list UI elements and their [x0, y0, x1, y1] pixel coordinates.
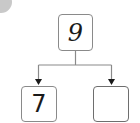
arrow-down-icon — [35, 79, 42, 85]
part-box-left: 7 — [21, 86, 57, 122]
whole-value: 9 — [68, 21, 83, 45]
part-value-left: 7 — [31, 92, 46, 116]
arrow-down-icon — [108, 79, 115, 85]
part-box-right-empty[interactable] — [93, 86, 129, 122]
whole-box: 9 — [58, 14, 93, 51]
